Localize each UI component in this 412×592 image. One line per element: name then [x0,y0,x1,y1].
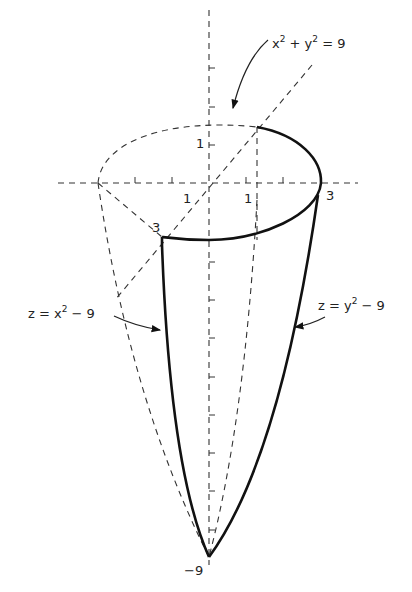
diagram-canvas: x2 + y2 = 9 z = x2 − 9 z = y2 − 9 1 1 1 … [0,0,412,592]
left-parabola-solid [162,237,209,557]
z-axis-ticks [209,68,215,530]
ellipse-back-dashed [98,125,257,183]
back-parabola-dashed [209,200,257,557]
left-surface-equation-label: z = x2 − 9 [28,304,95,321]
right-surface-equation-label: z = y2 − 9 [318,296,385,313]
right-eq-arrow [295,317,325,327]
tick-label-y-three: 3 [326,188,334,203]
left-eq-arrow [114,316,160,330]
tick-label-y-one: 1 [244,191,252,206]
tick-label-x-one: 1 [183,191,191,206]
ellipse-top-right-solid [257,127,321,183]
tick-label-z-one: 1 [196,136,204,151]
tick-label-x-three: 3 [152,220,160,235]
right-parabola-solid [209,195,318,557]
circle-equation-label: x2 + y2 = 9 [272,34,345,51]
tick-label-z-minus-nine: −9 [184,563,203,578]
circle-eq-arrow [233,40,268,108]
